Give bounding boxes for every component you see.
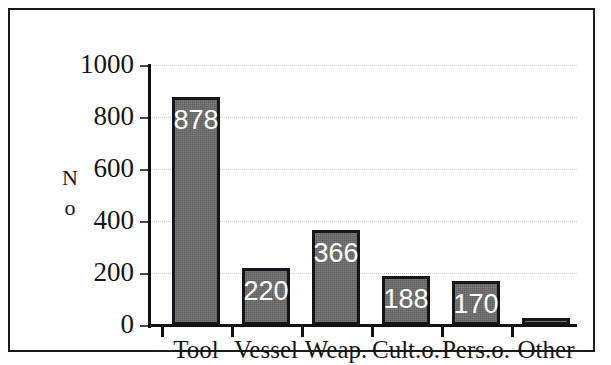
bar-other[interactable] <box>522 318 570 325</box>
y-tick-label-1000: 1000 <box>44 51 134 78</box>
bar-value-culto: 188 <box>380 286 432 313</box>
y-axis-title-line-2: o <box>55 193 85 223</box>
plot-area: 1000 800 600 400 200 0 N o <box>0 0 611 365</box>
x-label-tool: Tool <box>161 336 231 363</box>
gridline-1000 <box>150 65 577 66</box>
bar-value-vessel: 220 <box>240 278 292 305</box>
y-tick-label-200: 200 <box>44 259 134 286</box>
y-axis-title: N o <box>55 163 85 223</box>
figure: 1000 800 600 400 200 0 N o <box>0 0 611 365</box>
y-axis-line <box>148 64 151 328</box>
y-axis-title-line-1: N <box>55 163 85 193</box>
bar-value-tool: 878 <box>170 107 222 134</box>
bar-value-weap: 366 <box>310 240 362 267</box>
x-label-perso: Pers.o. <box>441 336 511 363</box>
x-label-weap: Weap. <box>301 336 371 363</box>
y-tick-label-0: 0 <box>44 311 134 338</box>
x-label-culto: Cult.o. <box>371 336 441 363</box>
x-label-other: Other <box>511 336 581 363</box>
bar-value-perso: 170 <box>450 291 502 318</box>
y-tick-label-800: 800 <box>44 103 134 130</box>
x-label-vessel: Vessel <box>231 336 301 363</box>
